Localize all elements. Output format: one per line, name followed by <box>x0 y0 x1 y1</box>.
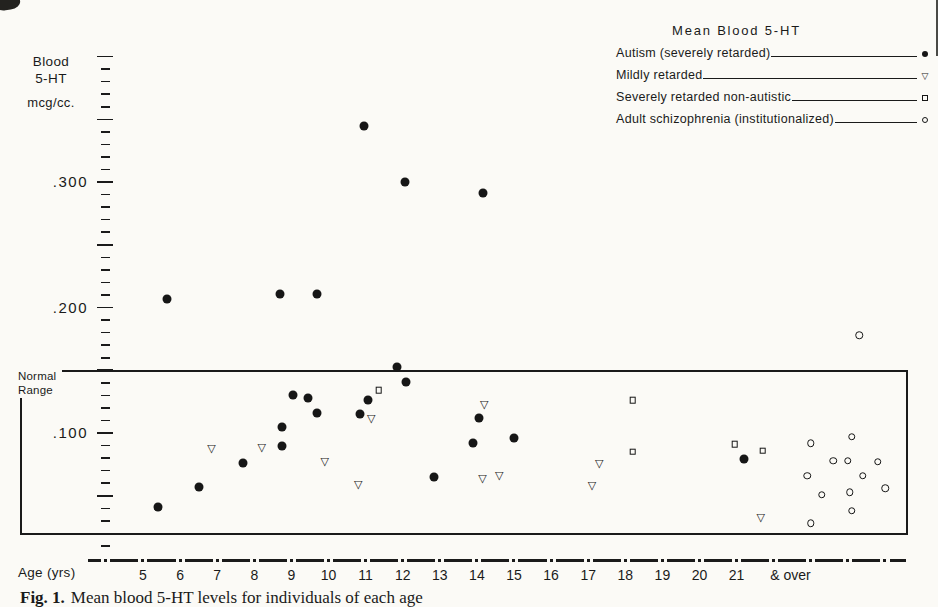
figure-caption-number: Fig. 1. <box>20 588 65 607</box>
y-minor-tick <box>101 344 110 346</box>
age-tick-label: & over <box>760 567 820 583</box>
data-point-open-triangle: ▽ <box>480 399 488 410</box>
legend-row: Adult schizophrenia (institutionalized) <box>616 104 933 126</box>
data-point-open-circle <box>807 520 815 528</box>
scan-corner-artifact <box>0 0 21 12</box>
data-point-filled-circle <box>153 503 162 512</box>
data-point-filled-circle <box>239 459 248 468</box>
data-point-filled-circle <box>194 483 203 492</box>
data-point-open-circle <box>874 458 882 466</box>
data-point-open-square <box>375 387 382 394</box>
normal-range-box-right-line <box>906 370 908 535</box>
data-point-filled-circle <box>510 434 519 443</box>
normal-range-box-left-line <box>20 398 22 534</box>
data-point-open-triangle: ▽ <box>756 512 764 523</box>
data-point-filled-circle <box>313 408 322 417</box>
data-point-open-triangle: ▽ <box>588 480 596 491</box>
y-minor-tick <box>101 81 110 83</box>
y-minor-tick <box>101 319 110 321</box>
data-point-open-triangle: ▽ <box>257 442 265 453</box>
x-axis-title: Age (yrs) <box>18 565 75 580</box>
data-point-filled-circle <box>359 121 368 130</box>
data-point-filled-circle <box>474 413 483 422</box>
y-axis-title-line1: Blood <box>20 53 82 70</box>
y-minor-tick <box>101 457 110 459</box>
data-point-open-square <box>629 449 636 456</box>
y-minor-tick <box>101 520 110 522</box>
y-tick-label: .100 <box>36 424 88 441</box>
open-square-icon <box>922 95 928 101</box>
normal-range-label: Normal Range <box>18 370 56 397</box>
figure-canvas: Blood 5-HT mcg/cc. Mean Blood 5-HT Autis… <box>0 0 938 607</box>
data-point-filled-circle <box>276 289 285 298</box>
data-point-filled-circle <box>430 472 439 481</box>
y-axis-title-line2: 5-HT <box>20 70 82 87</box>
data-point-open-triangle: ▽ <box>207 443 215 454</box>
legend-row: Mildly retarded▽ <box>616 60 933 82</box>
legend-entry-rule <box>771 56 917 57</box>
data-point-open-square <box>759 447 766 454</box>
data-point-filled-circle <box>356 410 365 419</box>
data-point-open-circle <box>829 457 837 465</box>
data-point-open-triangle: ▽ <box>367 413 375 424</box>
open-circle-icon <box>922 117 928 123</box>
data-point-open-triangle: ▽ <box>595 458 603 469</box>
data-point-filled-circle <box>304 393 313 402</box>
y-minor-tick <box>101 282 110 284</box>
data-point-open-square <box>629 397 636 404</box>
y-minor-tick <box>101 508 110 510</box>
data-point-open-circle <box>803 472 811 480</box>
y-minor-tick <box>101 219 110 221</box>
y-minor-tick <box>101 332 110 334</box>
data-point-open-circle <box>848 433 856 441</box>
data-point-open-triangle: ▽ <box>478 473 486 484</box>
y-axis-title-line3: mcg/cc. <box>20 94 82 111</box>
legend-entry-rule <box>703 78 917 79</box>
data-point-open-triangle: ▽ <box>354 478 362 489</box>
legend-entry-label: Mildly retarded <box>616 68 703 82</box>
y-minor-tick <box>101 533 110 535</box>
legend-entry-label: Adult schizophrenia (institutionalized) <box>616 112 835 126</box>
y-major-tick <box>97 244 113 246</box>
normal-range-label-line2: Range <box>18 384 56 398</box>
open-square-icon <box>917 91 933 105</box>
y-minor-tick <box>101 68 110 70</box>
y-major-tick <box>97 56 113 58</box>
legend-entry-rule <box>792 100 917 101</box>
data-point-filled-circle <box>163 294 172 303</box>
y-minor-tick <box>101 169 110 171</box>
figure-caption-text: Mean blood 5-HT levels for individuals o… <box>71 588 423 607</box>
y-major-tick <box>97 119 113 121</box>
data-point-filled-circle <box>289 391 298 400</box>
y-minor-tick <box>101 445 110 447</box>
y-minor-tick <box>101 257 110 259</box>
data-point-filled-circle <box>363 396 372 405</box>
legend: Mean Blood 5-HT Autism (severely retarde… <box>616 23 933 126</box>
data-point-open-circle <box>807 439 815 447</box>
data-point-filled-circle <box>393 362 402 371</box>
x-axis-line <box>88 559 906 562</box>
y-tick-label: .200 <box>36 299 88 316</box>
normal-range-label-line1: Normal <box>18 370 56 384</box>
y-minor-tick <box>101 407 110 409</box>
open-triangle-icon: ▽ <box>917 69 933 83</box>
filled-circle-icon <box>922 51 928 57</box>
data-point-filled-circle <box>278 441 287 450</box>
y-minor-tick <box>101 357 110 359</box>
data-point-open-circle <box>859 472 867 480</box>
y-major-tick <box>97 307 113 309</box>
y-minor-tick <box>101 482 110 484</box>
y-minor-tick <box>101 144 110 146</box>
data-point-filled-circle <box>478 189 487 198</box>
data-point-filled-circle <box>469 439 478 448</box>
y-minor-tick <box>101 194 110 196</box>
y-minor-tick <box>101 156 110 158</box>
y-minor-tick <box>101 420 110 422</box>
legend-row: Severely retarded non-autistic <box>616 82 933 104</box>
filled-circle-icon <box>917 47 933 61</box>
data-point-open-triangle: ▽ <box>321 456 329 467</box>
legend-entry-rule <box>835 122 917 123</box>
y-minor-tick <box>101 131 110 133</box>
data-point-filled-circle <box>400 178 409 187</box>
y-minor-tick <box>101 294 110 296</box>
